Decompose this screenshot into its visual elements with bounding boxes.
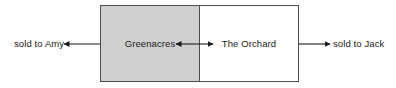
- parcel-greenacres: Greenacres: [101, 6, 200, 81]
- parcel-greenacres-label: Greenacres: [125, 38, 176, 49]
- parcel-the-orchard-label: The Orchard: [222, 38, 276, 49]
- parcel-diagram: Greenacres The Orchard sold to Amy sold …: [0, 0, 396, 88]
- parcel-boundary-rectangle: Greenacres The Orchard: [100, 5, 299, 82]
- annotation-label-sold-to-jack: sold to Jack: [333, 38, 384, 49]
- parcel-the-orchard: The Orchard: [200, 6, 298, 81]
- annotation-label-sold-to-amy: sold to Amy: [14, 38, 64, 49]
